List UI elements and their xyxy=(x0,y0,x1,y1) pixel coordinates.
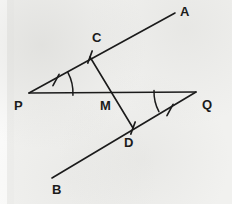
geometry-figure: A C P M Q D B xyxy=(0,0,232,204)
point-label-d: D xyxy=(124,136,133,149)
tick-mark-dq xyxy=(167,104,173,115)
point-label-q: Q xyxy=(202,98,212,111)
point-label-m: M xyxy=(100,99,111,112)
point-label-a: A xyxy=(180,5,189,18)
angle-arc-p xyxy=(68,72,73,95)
point-label-c: C xyxy=(92,31,101,44)
point-label-p: P xyxy=(14,99,23,112)
tick-mark-c xyxy=(88,51,92,63)
point-label-b: B xyxy=(52,183,61,196)
lines-group xyxy=(29,13,196,178)
segment-pa xyxy=(29,13,175,93)
angle-arc-q xyxy=(154,91,159,112)
figure-canvas xyxy=(0,0,232,204)
